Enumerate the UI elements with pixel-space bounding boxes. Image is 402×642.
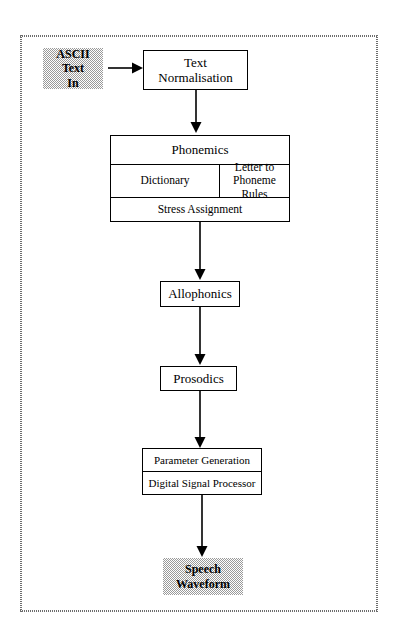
node-prosodics-label: Prosodics bbox=[173, 371, 224, 386]
phonemics-stress-assignment-cell: Stress Assignment bbox=[111, 198, 289, 221]
node-ascii-text-in-label: ASCII Text In bbox=[56, 47, 89, 90]
phonemics-stress-assignment-label: Stress Assignment bbox=[158, 203, 243, 217]
node-speech-waveform-label: Speech Waveform bbox=[176, 562, 230, 591]
arrow-synthesis-to-speech-waveform bbox=[194, 495, 210, 558]
node-speech-waveform: Speech Waveform bbox=[163, 558, 243, 595]
node-text-normalisation-label: Text Normalisation bbox=[158, 55, 232, 86]
synthesis-parameter-generation-cell: Parameter Generation bbox=[143, 449, 261, 471]
node-ascii-text-in: ASCII Text In bbox=[43, 48, 103, 89]
node-phonemics-block: Phonemics Dictionary Letter to Phoneme R… bbox=[110, 135, 290, 222]
synthesis-digital-signal-processor-cell: Digital Signal Processor bbox=[143, 472, 261, 494]
arrow-text-normalisation-to-phonemics bbox=[188, 90, 204, 134]
synthesis-parameter-generation-row: Parameter Generation bbox=[143, 449, 261, 471]
phonemics-letter-to-phoneme-rules-label: Letter to Phoneme Rules bbox=[220, 161, 289, 202]
arrow-ascii-to-text-normalisation bbox=[108, 60, 144, 76]
node-synthesis-block: Parameter Generation Digital Signal Proc… bbox=[142, 448, 262, 495]
node-allophonics-label: Allophonics bbox=[168, 286, 232, 301]
arrow-allophonics-to-prosodics bbox=[192, 307, 208, 366]
phonemics-letter-to-phoneme-rules-cell: Letter to Phoneme Rules bbox=[219, 165, 289, 197]
node-text-normalisation: Text Normalisation bbox=[143, 50, 248, 90]
synthesis-dsp-row: Digital Signal Processor bbox=[143, 471, 261, 494]
arrow-phonemics-to-allophonics bbox=[192, 222, 208, 281]
phonemics-stress-row: Stress Assignment bbox=[111, 197, 289, 221]
phonemics-header-label: Phonemics bbox=[171, 142, 228, 157]
node-prosodics: Prosodics bbox=[160, 366, 237, 391]
synthesis-digital-signal-processor-label: Digital Signal Processor bbox=[149, 477, 256, 490]
node-allophonics: Allophonics bbox=[160, 281, 240, 307]
synthesis-parameter-generation-label: Parameter Generation bbox=[154, 454, 250, 467]
phonemics-dictionary-label: Dictionary bbox=[140, 174, 189, 188]
phonemics-dictionary-cell: Dictionary bbox=[111, 165, 219, 197]
arrow-prosodics-to-parameter-generation bbox=[192, 391, 208, 449]
diagram-frame: ASCII Text In Text Normalisation Phonemi… bbox=[20, 35, 378, 612]
phonemics-middle-row: Dictionary Letter to Phoneme Rules bbox=[111, 164, 289, 197]
